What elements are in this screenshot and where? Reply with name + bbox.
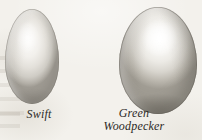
- swift-egg-illustration: [5, 9, 59, 104]
- egg-illustration-plate: Swift Green Woodpecker: [0, 0, 202, 140]
- swift-caption: Swift: [0, 108, 78, 121]
- woodpecker-caption-line-2: Woodpecker: [92, 120, 176, 133]
- green-woodpecker-egg-illustration: [119, 7, 197, 114]
- swift-caption-line-1: Swift: [0, 108, 78, 121]
- green-woodpecker-caption: Green Woodpecker: [92, 107, 176, 133]
- woodpecker-egg-outline: [119, 7, 197, 114]
- swift-egg-outline: [5, 9, 59, 104]
